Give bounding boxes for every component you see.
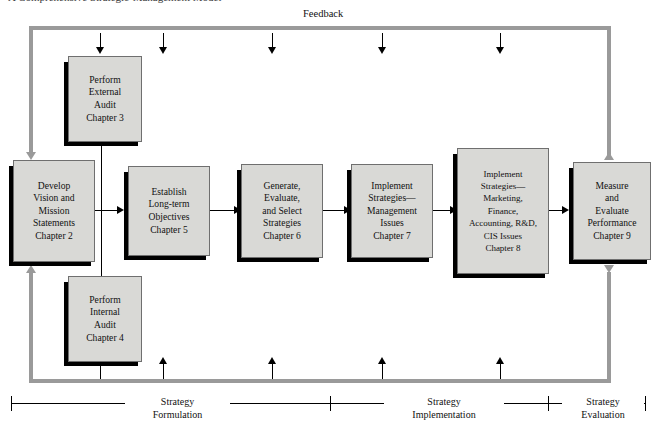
feedback-rail-right-up (607, 26, 611, 156)
flow-line-objectives-generate (210, 210, 236, 211)
feedback-rail-top (29, 26, 611, 30)
phase-evaluation-line-2: Evaluation (567, 409, 639, 422)
implement-mgmt-line-1: Implement (354, 180, 430, 193)
generate-line-3: and Select (244, 205, 320, 218)
generate-chapter: Chapter 6 (244, 230, 320, 243)
internal-audit-line-2: Internal (71, 306, 139, 319)
external-audit-chapter: Chapter 3 (71, 112, 139, 125)
vision-mission-chapter: Chapter 2 (16, 230, 92, 243)
vision-mission-line-3: Mission (16, 205, 92, 218)
feedback-label: Feedback (303, 8, 343, 19)
feedback-arrow-out-of-measure-bottom (604, 265, 614, 273)
phase-formulation-line-2: Formulation (130, 409, 225, 422)
internal-audit-line-1: Perform (71, 294, 139, 307)
phase-implementation-line-1: Strategy (389, 396, 499, 409)
generate-line-4: Strategies (244, 217, 320, 230)
measure-line-1: Measure (576, 180, 648, 193)
feedback-tick-line-9 (382, 363, 383, 379)
feedback-tick-arrow-7 (159, 357, 167, 364)
feedback-tick-arrow-5 (496, 47, 504, 54)
process-box-long-term-objectives[interactable]: Establish Long-term Objectives Chapter 5 (128, 166, 210, 256)
feedback-arrow-into-vision-bottom (26, 265, 36, 273)
feedback-tick-line-10 (500, 363, 501, 379)
process-box-internal-audit[interactable]: Perform Internal Audit Chapter 4 (68, 276, 142, 362)
feedback-tick-arrow-4 (378, 47, 386, 54)
strategic-management-model-diagram: A Comprehensive Strategic-Management Mod… (0, 0, 658, 428)
feedback-rail-left-up (29, 272, 33, 383)
feedback-tick-arrow-9 (378, 357, 386, 364)
measure-chapter: Chapter 9 (576, 230, 648, 243)
feedback-tick-arrow-8 (268, 357, 276, 364)
process-box-external-audit[interactable]: Perform External Audit Chapter 3 (68, 56, 142, 142)
implement-func-chapter: Chapter 8 (460, 242, 546, 254)
objectives-line-2: Long-term (131, 198, 207, 211)
implement-func-line-6: CIS Issues (460, 230, 546, 242)
feedback-tick-arrow-2 (159, 47, 167, 54)
feedback-rail-bottom (29, 379, 611, 383)
flow-line-vision-objectives (95, 210, 119, 211)
feedback-tick-arrow-3 (268, 47, 276, 54)
vision-mission-line-1: Develop (16, 180, 92, 193)
phase-implementation-line-2: Implementation (389, 409, 499, 422)
external-audit-line-2: External (71, 86, 139, 99)
objectives-line-3: Objectives (131, 211, 207, 224)
process-box-implement-functional[interactable]: Implement Strategies— Marketing, Finance… (457, 148, 549, 274)
objectives-line-1: Establish (131, 186, 207, 199)
implement-mgmt-line-3: Management (354, 205, 430, 218)
external-audit-line-3: Audit (71, 99, 139, 112)
phase-formulation-line-1: Strategy (130, 396, 225, 409)
implement-mgmt-line-4: Issues (354, 217, 430, 230)
generate-line-2: Evaluate, (244, 192, 320, 205)
phase-label-evaluation: Strategy Evaluation (562, 396, 644, 421)
implement-func-line-2: Strategies— (460, 180, 546, 192)
process-box-measure-evaluate[interactable]: Measure and Evaluate Performance Chapter… (573, 162, 651, 260)
feedback-tick-arrow-1 (96, 47, 104, 54)
implement-mgmt-line-2: Strategies— (354, 192, 430, 205)
feedback-rail-left-down (29, 26, 33, 154)
phase-label-implementation: Strategy Implementation (384, 396, 504, 421)
process-box-generate-select-strategies[interactable]: Generate, Evaluate, and Select Strategie… (241, 164, 323, 258)
measure-line-4: Performance (576, 217, 648, 230)
bracket-tick-end (645, 396, 646, 411)
measure-line-2: and (576, 192, 648, 205)
feedback-rail-right-down (607, 272, 611, 383)
process-box-vision-mission[interactable]: Develop Vision and Mission Statements Ch… (13, 160, 95, 262)
internal-audit-chapter: Chapter 4 (71, 332, 139, 345)
external-audit-line-1: Perform (71, 74, 139, 87)
phase-evaluation-line-1: Strategy (567, 396, 639, 409)
objectives-chapter: Chapter 5 (131, 224, 207, 237)
feedback-arrow-into-vision-top (26, 152, 36, 160)
implement-func-line-1: Implement (460, 168, 546, 180)
measure-line-3: Evaluate (576, 205, 648, 218)
process-box-implement-management[interactable]: Implement Strategies— Management Issues … (351, 164, 433, 258)
flow-arrow-vision-objectives (117, 206, 124, 214)
phase-label-formulation: Strategy Formulation (125, 396, 230, 421)
feedback-tick-line-7 (163, 363, 164, 379)
feedback-tick-arrow-10 (496, 357, 504, 364)
vision-mission-line-2: Vision and (16, 192, 92, 205)
vision-mission-line-4: Statements (16, 217, 92, 230)
implement-func-line-4: Finance, (460, 205, 546, 217)
feedback-arrow-out-of-measure-top (604, 152, 614, 160)
flow-arrow-functional-measure (562, 206, 569, 214)
generate-line-1: Generate, (244, 180, 320, 193)
implement-func-line-5: Accounting, R&D, (460, 217, 546, 229)
implement-func-line-3: Marketing, (460, 192, 546, 204)
internal-audit-line-3: Audit (71, 319, 139, 332)
clipped-caption: A Comprehensive Strategic-Management Mod… (8, 0, 308, 6)
flow-line-generate-implement (320, 210, 346, 211)
feedback-tick-line-8 (272, 363, 273, 379)
implement-mgmt-chapter: Chapter 7 (354, 230, 430, 243)
